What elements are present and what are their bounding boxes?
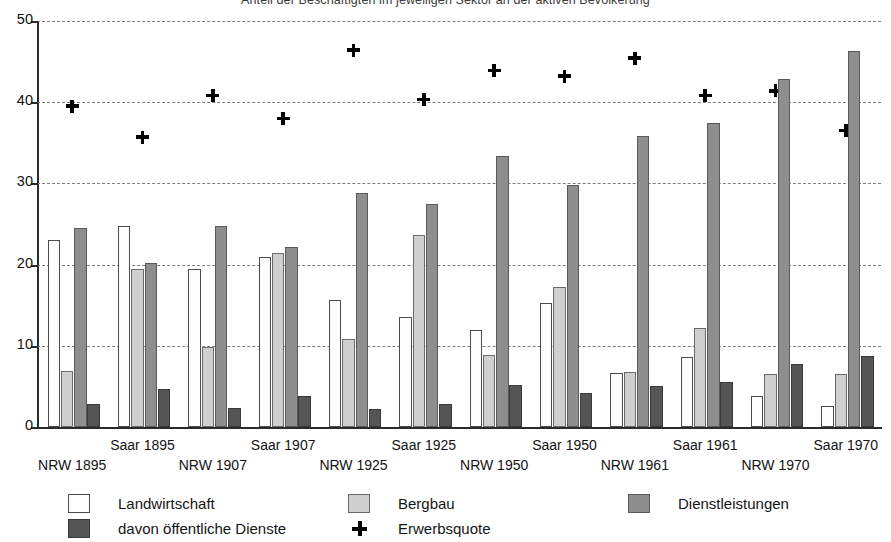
bar-oeffentliche-saar-1925 [439,404,452,427]
bar-landwirtschaft-saar-1961 [681,357,694,427]
chart-legend: LandwirtschaftBergbauDienstleistungendav… [0,492,891,542]
bar-oeffentliche-saar-1950 [580,393,593,427]
marker-erwerbsquote-nrw-1950 [488,64,501,77]
bar-dienstleistungen-nrw-1970 [778,79,791,427]
bar-dienstleistungen-saar-1907 [285,247,298,427]
x-axis-label-nrw-1970: NRW 1970 [741,457,809,473]
y-tick-label-20: 20 [0,255,33,271]
x-axis-label-saar-1970: Saar 1970 [814,437,879,453]
bar-bergbau-nrw-1925 [342,339,355,427]
plot-area [37,21,881,427]
bar-landwirtschaft-saar-1895 [118,226,131,427]
bar-bergbau-nrw-1950 [483,355,496,427]
y-tick-label-0: 0 [0,417,33,433]
bar-landwirtschaft-saar-1970 [821,406,834,427]
x-axis-label-nrw-1907: NRW 1907 [179,457,247,473]
bar-landwirtschaft-nrw-1950 [470,330,483,427]
y-tick-label-50: 50 [0,11,33,27]
y-tick-label-40: 40 [0,92,33,108]
chart-title: Anteil der Beschäftigten im jeweiligen S… [0,0,891,7]
legend-item-erwerbsquote[interactable]: Erwerbsquote [348,519,491,538]
bar-dienstleistungen-nrw-1895 [74,228,87,427]
x-axis-label-nrw-1961: NRW 1961 [601,457,669,473]
legend-item-davon-öffentliche-dienste[interactable]: davon öffentliche Dienste [68,519,286,538]
bar-dienstleistungen-nrw-1961 [637,136,650,428]
bar-oeffentliche-saar-1970 [861,356,874,427]
bar-oeffentliche-nrw-1925 [369,409,382,427]
bar-oeffentliche-saar-1907 [298,396,311,427]
bar-bergbau-saar-1907 [272,253,285,427]
bar-oeffentliche-saar-1961 [720,382,733,427]
bar-bergbau-saar-1961 [694,328,707,427]
marker-erwerbsquote-nrw-1925 [347,44,360,57]
bar-oeffentliche-nrw-1907 [228,408,241,427]
legend-label: Erwerbsquote [398,520,491,537]
bar-landwirtschaft-saar-1950 [540,303,553,427]
marker-erwerbsquote-nrw-1895 [66,100,79,113]
legend-label: davon öffentliche Dienste [118,520,286,537]
bar-bergbau-nrw-1970 [764,374,777,427]
bar-dienstleistungen-saar-1970 [848,51,861,427]
bar-oeffentliche-nrw-1895 [87,404,100,427]
x-axis-label-saar-1895: Saar 1895 [110,437,175,453]
bar-dienstleistungen-nrw-1925 [356,193,369,427]
x-axis-label-nrw-1925: NRW 1925 [319,457,387,473]
x-axis-line [37,427,882,429]
bar-dienstleistungen-nrw-1907 [215,226,228,427]
bar-bergbau-nrw-1895 [61,371,74,427]
legend-label: Dienstleistungen [678,495,789,512]
marker-erwerbsquote-nrw-1907 [206,89,219,102]
bar-dienstleistungen-saar-1950 [567,185,580,427]
bar-oeffentliche-nrw-1970 [791,364,804,427]
marker-erwerbsquote-saar-1961 [699,89,712,102]
marker-erwerbsquote-nrw-1961 [628,52,641,65]
legend-swatch-oeffentliche [68,519,90,538]
y-tick-label-10: 10 [0,336,33,352]
legend-item-dienstleistungen[interactable]: Dienstleistungen [628,494,789,513]
plus-marker-icon [348,519,370,538]
bar-bergbau-saar-1925 [413,235,426,427]
x-axis-label-nrw-1950: NRW 1950 [460,457,528,473]
chart-container: Anteil der Beschäftigten im jeweiligen S… [0,0,891,542]
bar-bergbau-nrw-1907 [202,347,215,427]
x-axis-label-nrw-1895: NRW 1895 [38,457,106,473]
bar-bergbau-saar-1970 [835,374,848,427]
bar-oeffentliche-nrw-1950 [509,385,522,427]
bar-dienstleistungen-saar-1961 [707,123,720,428]
x-axis-label-saar-1950: Saar 1950 [532,437,597,453]
bar-dienstleistungen-saar-1895 [145,263,158,427]
legend-item-landwirtschaft[interactable]: Landwirtschaft [68,494,215,513]
marker-erwerbsquote-saar-1895 [136,131,149,144]
bar-landwirtschaft-saar-1925 [399,317,412,427]
bar-landwirtschaft-nrw-1907 [188,269,201,427]
legend-swatch-landwirtschaft [68,494,90,513]
bar-landwirtschaft-nrw-1925 [329,300,342,427]
legend-item-bergbau[interactable]: Bergbau [348,494,455,513]
legend-swatch-dienstleistungen [628,494,650,513]
bar-bergbau-nrw-1961 [624,372,637,427]
bar-oeffentliche-saar-1895 [158,389,171,427]
marker-erwerbsquote-saar-1925 [417,93,430,106]
bar-landwirtschaft-nrw-1970 [751,396,764,427]
marker-erwerbsquote-saar-1950 [558,70,571,83]
bar-landwirtschaft-nrw-1961 [610,373,623,427]
bar-landwirtschaft-saar-1907 [259,257,272,427]
bar-dienstleistungen-saar-1925 [426,204,439,427]
legend-label: Bergbau [398,495,455,512]
bar-bergbau-saar-1895 [131,269,144,427]
bar-bergbau-saar-1950 [553,287,566,427]
legend-label: Landwirtschaft [118,495,215,512]
bar-landwirtschaft-nrw-1895 [48,240,61,427]
y-tick-label-30: 30 [0,173,33,189]
bar-oeffentliche-nrw-1961 [650,386,663,427]
marker-erwerbsquote-saar-1907 [277,112,290,125]
legend-swatch-bergbau [348,494,370,513]
bar-dienstleistungen-nrw-1950 [496,156,509,427]
x-axis-label-saar-1961: Saar 1961 [673,437,738,453]
x-axis-label-saar-1925: Saar 1925 [392,437,457,453]
x-axis-label-saar-1907: Saar 1907 [251,437,316,453]
